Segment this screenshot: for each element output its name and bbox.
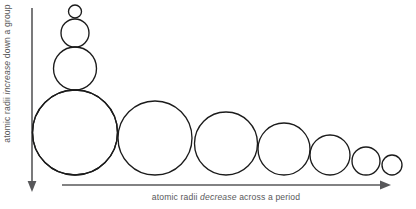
- atom-circle-period-2: [118, 101, 192, 175]
- horizontal-axis-label-emphasis: decrease: [200, 192, 237, 202]
- atom-circle-period-1: [33, 90, 118, 175]
- atom-circle-period-7: [382, 155, 402, 175]
- vertical-axis-label: atomic radii increase down a group: [3, 0, 17, 178]
- vertical-axis-label-emphasis: increase: [2, 61, 12, 95]
- horizontal-axis-label: atomic radii decrease across a period: [62, 193, 390, 202]
- horizontal-axis-label-suffix: across a period: [237, 192, 301, 202]
- atom-circle-period-4: [258, 123, 310, 175]
- vertical-axis-group: [28, 8, 37, 192]
- horizontal-axis-label-prefix: atomic radii: [152, 192, 200, 202]
- atom-circle-period-6: [352, 147, 380, 175]
- atom-circle-period-5: [310, 135, 350, 175]
- diagram-canvas: atomic radii increase down a group atomi…: [0, 0, 416, 209]
- period-row-circles: [33, 90, 403, 175]
- vertical-axis-label-prefix: atomic radii: [2, 94, 12, 142]
- atom-circle-group-3: [54, 47, 97, 90]
- arrow-down-icon: [28, 181, 37, 192]
- horizontal-axis-group: [62, 181, 391, 190]
- atomic-radii-diagram: [0, 0, 416, 209]
- atom-circle-period-3: [195, 112, 258, 175]
- atom-circle-group-2: [61, 19, 89, 47]
- vertical-axis-label-suffix: down a group: [2, 4, 12, 60]
- arrow-right-icon: [380, 181, 391, 190]
- atom-circle-group-1: [69, 5, 82, 18]
